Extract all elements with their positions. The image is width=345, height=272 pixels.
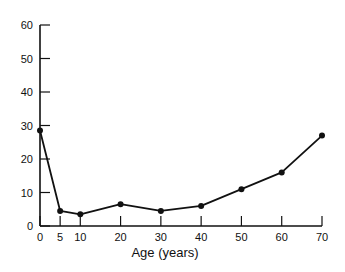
x-tick-label: 20	[114, 231, 126, 243]
data-point-marker	[158, 208, 164, 214]
y-tick-label: 60	[21, 19, 33, 31]
y-tick-label: 40	[21, 86, 33, 98]
y-tick-label: 50	[21, 53, 33, 65]
x-axis-title: Age (years)	[131, 245, 198, 260]
x-tick-label: 10	[74, 231, 86, 243]
data-point-marker	[319, 133, 325, 139]
data-point-marker	[279, 169, 285, 175]
x-tick-label: 70	[316, 231, 328, 243]
data-series	[37, 128, 325, 218]
x-tick-label: 0	[37, 231, 43, 243]
data-point-marker	[77, 211, 83, 217]
data-point-marker	[238, 186, 244, 192]
line-chart: 0102030405060 0510203040506070 Age (year…	[0, 0, 345, 272]
x-axis: 0510203040506070	[37, 216, 328, 243]
y-tick-label: 20	[21, 153, 33, 165]
data-point-marker	[198, 203, 204, 209]
y-tick-label: 0	[27, 220, 33, 232]
y-tick-label: 30	[21, 120, 33, 132]
x-tick-label: 30	[155, 231, 167, 243]
x-tick-label: 40	[195, 231, 207, 243]
y-tick-label: 10	[21, 187, 33, 199]
x-tick-label: 5	[57, 231, 63, 243]
x-tick-label: 60	[276, 231, 288, 243]
y-axis: 0102030405060	[21, 19, 50, 232]
data-point-marker	[118, 201, 124, 207]
data-point-marker	[57, 208, 63, 214]
x-tick-label: 50	[235, 231, 247, 243]
data-point-marker	[37, 128, 43, 134]
